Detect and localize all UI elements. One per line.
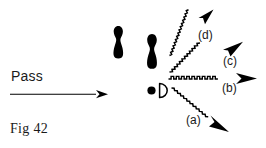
figure-canvas: Pass Fig 42 (a) (b) (c) (d) — [0, 0, 266, 148]
figure-caption: Fig 42 — [10, 122, 48, 136]
arrow-label-d: (d) — [198, 29, 213, 41]
arrow-label-c: (c) — [223, 55, 237, 67]
arrow-label-b: (b) — [222, 82, 237, 94]
bowling-pin-back — [113, 26, 123, 59]
arrow-b — [169, 73, 258, 84]
arrow-label-a: (a) — [186, 114, 201, 126]
pass-label: Pass — [11, 69, 43, 83]
bowling-pin-front — [147, 34, 157, 69]
pass-arrow — [10, 90, 108, 98]
ball-dot — [147, 86, 155, 94]
d-marker — [160, 84, 168, 98]
